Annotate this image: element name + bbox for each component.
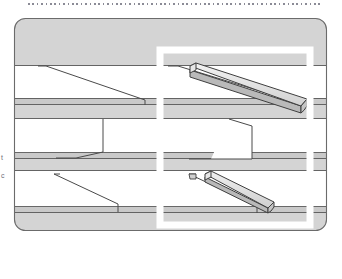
figure-canvas: t c (0, 0, 342, 279)
stratum-4-seam-band (14, 105, 327, 119)
stratum-5-void-mid (14, 119, 327, 153)
stratum-7-seam-band (14, 159, 327, 171)
cross-section-svg-wrapper (0, 0, 342, 279)
stratum-8-void-lower (14, 171, 327, 207)
cross-section-diagram (0, 0, 342, 279)
notch-marker-lower (189, 174, 196, 179)
stratum-1-overburden (14, 18, 327, 66)
